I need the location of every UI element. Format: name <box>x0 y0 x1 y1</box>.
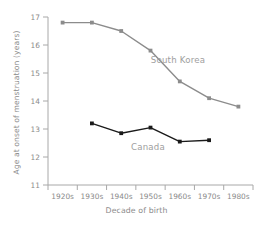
x-tick-label: 1980s <box>227 192 250 201</box>
y-tick-label: 14 <box>31 97 41 106</box>
y-tick-label: 13 <box>31 125 41 134</box>
data-point-marker <box>149 49 153 53</box>
x-tick-label: 1950s <box>139 192 162 201</box>
y-axis: 11121314151617 <box>31 13 48 190</box>
y-tick-label: 16 <box>31 41 41 50</box>
y-tick-label: 11 <box>31 181 41 190</box>
chart-container: Age at onset of menstruation (years) 111… <box>0 0 273 225</box>
x-tick-label: 1930s <box>81 192 104 201</box>
y-tick-group: 11121314151617 <box>31 13 48 190</box>
y-tick-label: 15 <box>31 69 41 78</box>
data-point-marker <box>207 96 211 100</box>
data-point-marker <box>90 21 94 25</box>
x-tick-label: 1960s <box>168 192 191 201</box>
x-axis: 1920s1930s1940s1950s1960s1970s1980s <box>48 185 253 201</box>
series-annotation-label: Canada <box>131 142 165 152</box>
data-point-marker <box>61 21 65 25</box>
data-point-marker <box>178 140 182 144</box>
data-point-marker <box>178 80 182 84</box>
data-point-marker <box>90 122 94 126</box>
data-point-marker <box>119 29 123 33</box>
x-tick-label: 1920s <box>51 192 74 201</box>
series-layer <box>61 21 241 144</box>
y-tick-label: 12 <box>31 153 40 162</box>
y-tick-label: 17 <box>31 13 41 22</box>
x-tick-label: 1970s <box>198 192 221 201</box>
line-chart-plot: 11121314151617 1920s1930s1940s1950s1960s… <box>0 0 273 225</box>
data-point-marker <box>149 126 153 130</box>
data-point-marker <box>119 131 123 135</box>
x-axis-label: Decade of birth <box>0 206 273 215</box>
x-tick-group <box>48 185 253 190</box>
x-tick-label: 1940s <box>110 192 133 201</box>
x-tick-label-group: 1920s1930s1940s1950s1960s1970s1980s <box>51 192 250 201</box>
data-point-marker <box>237 105 241 109</box>
data-point-marker <box>207 138 211 142</box>
series-annotation-label: South Korea <box>151 55 205 65</box>
